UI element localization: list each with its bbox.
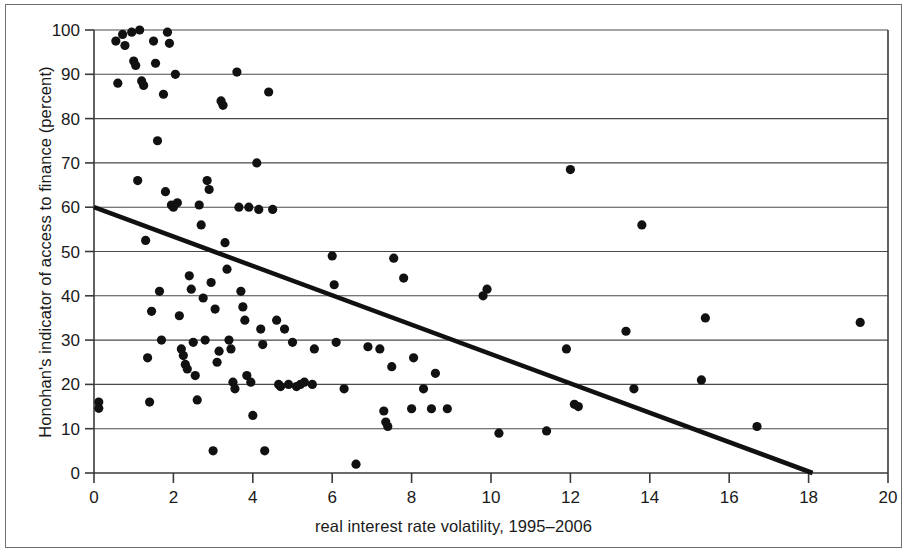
x-axis-ticks-group: 02468101214161820	[89, 473, 897, 507]
scatter-point	[244, 203, 253, 212]
scatter-point	[234, 203, 243, 212]
scatter-point	[248, 411, 257, 420]
y-tick-label: 60	[61, 198, 80, 217]
scatter-point	[697, 375, 706, 384]
y-tick-label: 30	[61, 331, 80, 350]
scatter-point	[268, 205, 277, 214]
scatter-point	[230, 384, 239, 393]
scatter-point	[187, 285, 196, 294]
scatter-point	[139, 81, 148, 90]
x-tick-label: 8	[407, 488, 416, 507]
scatter-point	[120, 41, 129, 50]
scatter-point	[203, 176, 212, 185]
scatter-point	[621, 327, 630, 336]
scatter-point	[214, 347, 223, 356]
scatter-point	[383, 422, 392, 431]
scatter-point	[276, 382, 285, 391]
scatter-point	[566, 165, 575, 174]
x-tick-label: 18	[799, 488, 818, 507]
scatter-point	[207, 278, 216, 287]
scatter-point	[193, 395, 202, 404]
scatter-point	[191, 371, 200, 380]
scatter-point	[222, 265, 231, 274]
scatter-point	[431, 369, 440, 378]
y-tick-label: 0	[71, 464, 80, 483]
plot-area: 0102030405060708090100 02468101214161820	[0, 0, 907, 554]
scatter-point	[179, 351, 188, 360]
scatter-point	[246, 378, 255, 387]
scatter-point	[195, 200, 204, 209]
scatter-point	[856, 318, 865, 327]
scatter-point	[149, 36, 158, 45]
scatter-point	[143, 353, 152, 362]
scatter-point	[562, 344, 571, 353]
scatter-point	[175, 311, 184, 320]
scatter-point	[157, 336, 166, 345]
scatter-point	[409, 353, 418, 362]
scatter-point	[330, 280, 339, 289]
scatter-point	[118, 30, 127, 39]
scatter-point	[407, 404, 416, 413]
scatter-point	[212, 358, 221, 367]
scatter-point	[332, 338, 341, 347]
scatter-point	[264, 87, 273, 96]
scatter-point	[127, 28, 136, 37]
scatter-point	[159, 90, 168, 99]
scatter-point	[236, 287, 245, 296]
scatter-point	[399, 273, 408, 282]
x-tick-label: 20	[879, 488, 898, 507]
x-tick-label: 12	[561, 488, 580, 507]
scatter-point	[701, 313, 710, 322]
x-tick-label: 16	[720, 488, 739, 507]
scatter-point	[328, 251, 337, 260]
scatter-point	[147, 307, 156, 316]
y-tick-label: 10	[61, 420, 80, 439]
scatter-point	[133, 176, 142, 185]
scatter-point	[220, 238, 229, 247]
scatter-point	[272, 316, 281, 325]
scatter-point	[637, 220, 646, 229]
scatter-point	[218, 101, 227, 110]
scatter-point	[542, 426, 551, 435]
y-axis-label-container: Honohan's indicator of access to finance…	[36, 0, 60, 512]
scatter-point	[224, 336, 233, 345]
scatter-point	[574, 402, 583, 411]
x-tick-label: 10	[482, 488, 501, 507]
scatter-point	[201, 336, 210, 345]
scatter-point	[258, 340, 267, 349]
scatter-points-group	[94, 25, 865, 468]
scatter-point	[199, 293, 208, 302]
y-tick-label: 80	[61, 110, 80, 129]
scatter-point	[171, 70, 180, 79]
scatter-point	[419, 384, 428, 393]
scatter-point	[256, 324, 265, 333]
scatter-point	[205, 185, 214, 194]
scatter-point	[226, 344, 235, 353]
y-tick-label: 50	[61, 243, 80, 262]
y-axis-label: Honohan's indicator of access to finance…	[36, 0, 55, 512]
scatter-point	[185, 271, 194, 280]
scatter-point	[94, 404, 103, 413]
y-tick-label: 20	[61, 375, 80, 394]
scatter-point	[141, 236, 150, 245]
scatter-point	[238, 302, 247, 311]
scatter-point	[183, 364, 192, 373]
scatter-chart-figure: 0102030405060708090100 02468101214161820…	[0, 0, 907, 554]
scatter-point	[340, 384, 349, 393]
scatter-point	[752, 422, 761, 431]
scatter-point	[252, 158, 261, 167]
y-tick-label: 70	[61, 154, 80, 173]
scatter-point	[113, 79, 122, 88]
scatter-point	[284, 380, 293, 389]
scatter-point	[310, 344, 319, 353]
x-tick-label: 2	[169, 488, 178, 507]
x-axis-label: real interest rate volatility, 1995–2006	[0, 517, 907, 536]
scatter-point	[155, 287, 164, 296]
scatter-point	[165, 39, 174, 48]
scatter-point	[351, 460, 360, 469]
scatter-point	[145, 398, 154, 407]
scatter-point	[629, 384, 638, 393]
scatter-point	[173, 198, 182, 207]
scatter-point	[189, 338, 198, 347]
scatter-point	[254, 205, 263, 214]
